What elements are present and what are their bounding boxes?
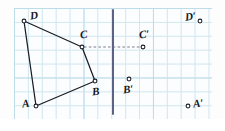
diagram-canvas: ABCDA′B′C′D′ xyxy=(0,0,225,131)
point-C xyxy=(80,45,84,49)
point-D xyxy=(22,19,26,23)
label-C-prime: C′ xyxy=(138,28,150,40)
point-C-prime xyxy=(141,45,145,49)
point-B xyxy=(93,79,97,83)
point-A xyxy=(34,104,38,108)
point-A-prime xyxy=(186,104,190,108)
point-B-prime xyxy=(127,77,131,81)
label-B: B xyxy=(91,86,100,98)
edge-CD xyxy=(24,21,82,47)
label-D: D xyxy=(29,10,38,22)
edge-DA xyxy=(24,21,36,106)
label-B-prime: B′ xyxy=(122,83,134,95)
label-A-prime: A′ xyxy=(192,97,204,109)
label-C: C xyxy=(79,29,88,41)
label-D-prime: D′ xyxy=(184,10,196,22)
edge-AB xyxy=(36,81,95,106)
point-D-prime xyxy=(198,19,202,23)
edge-BC xyxy=(82,47,95,81)
label-A: A xyxy=(21,98,30,110)
